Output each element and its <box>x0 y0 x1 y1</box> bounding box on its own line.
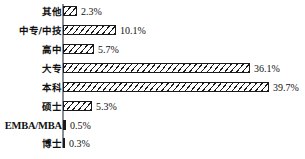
bar-rows-container: 其他 2.3% 中专/中技 10.1% 高中 5.7% 大专 3 <box>0 0 305 159</box>
value-label-qita: 2.3% <box>81 6 102 17</box>
table-row: 本科 39.7% <box>0 78 305 96</box>
table-row: 高中 5.7% <box>0 40 305 58</box>
table-row: 博士 0.3% <box>0 134 305 152</box>
value-label-zhongzhuan: 10.1% <box>120 25 146 36</box>
bar-qita <box>63 6 77 16</box>
bar-wrap-dazhuan: 36.1% <box>63 59 280 77</box>
value-label-shuoshi: 5.3% <box>96 101 117 112</box>
category-label-benke: 本科 <box>0 82 62 93</box>
bar-zhongzhuan <box>63 25 116 35</box>
bar-wrap-zhongzhuan: 10.1% <box>63 21 146 39</box>
bar-dazhuan <box>63 63 250 73</box>
category-label-gaozhong: 高中 <box>0 44 62 55</box>
value-label-dazhuan: 36.1% <box>254 63 280 74</box>
bar-wrap-benke: 39.7% <box>63 78 299 96</box>
value-label-emba-mba: 0.5% <box>70 120 91 131</box>
table-row: 其他 2.3% <box>0 2 305 20</box>
education-level-bar-chart: 其他 2.3% 中专/中技 10.1% 高中 5.7% 大专 3 <box>0 0 305 159</box>
value-label-boshi: 0.3% <box>69 138 90 149</box>
bar-wrap-qita: 2.3% <box>63 2 102 20</box>
table-row: EMBA/MBA 0.5% <box>0 116 305 134</box>
bar-shuoshi <box>63 101 92 111</box>
table-row: 大专 36.1% <box>0 59 305 77</box>
bar-wrap-shuoshi: 5.3% <box>63 97 117 115</box>
bar-wrap-gaozhong: 5.7% <box>63 40 119 58</box>
category-label-qita: 其他 <box>0 6 62 17</box>
bar-wrap-emba-mba: 0.5% <box>63 116 91 134</box>
value-label-gaozhong: 5.7% <box>98 44 119 55</box>
category-label-shuoshi: 硕士 <box>0 101 62 112</box>
table-row: 中专/中技 10.1% <box>0 21 305 39</box>
bar-boshi <box>63 138 65 148</box>
category-label-dazhuan: 大专 <box>0 63 62 74</box>
category-label-boshi: 博士 <box>0 138 62 149</box>
bar-benke <box>63 82 269 92</box>
bar-gaozhong <box>63 44 94 54</box>
bar-wrap-boshi: 0.3% <box>63 134 90 152</box>
category-label-zhongzhuan: 中专/中技 <box>0 25 62 36</box>
bar-emba-mba <box>63 120 66 130</box>
category-label-emba-mba: EMBA/MBA <box>0 120 62 131</box>
table-row: 硕士 5.3% <box>0 97 305 115</box>
value-label-benke: 39.7% <box>273 82 299 93</box>
